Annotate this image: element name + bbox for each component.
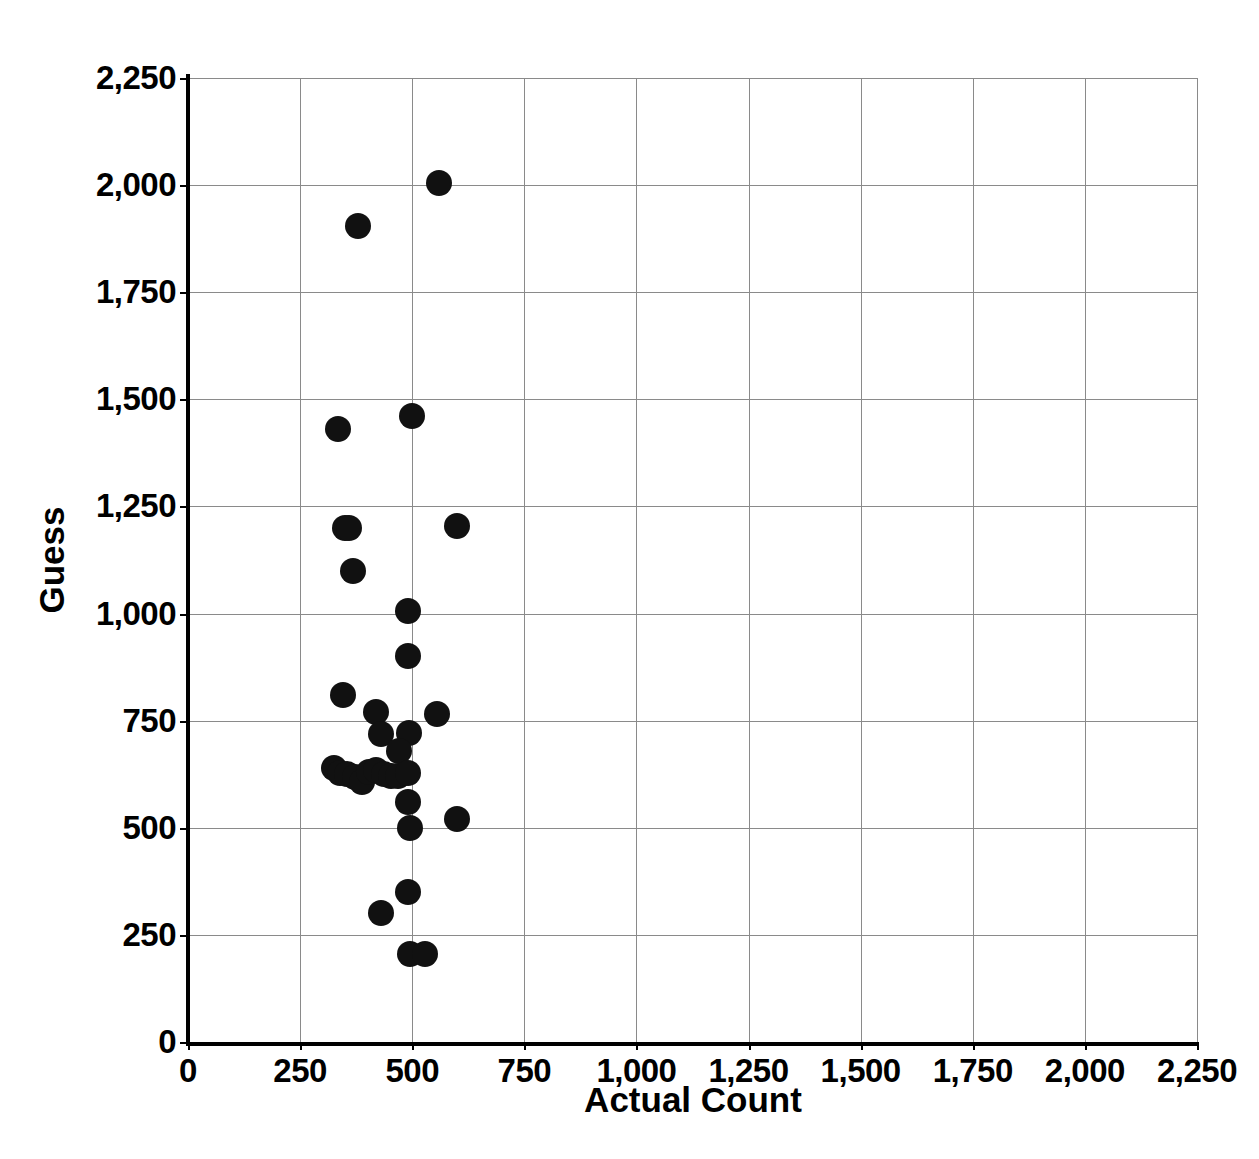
data-point <box>340 558 366 584</box>
gridline-vertical <box>973 78 974 1042</box>
data-point <box>397 815 423 841</box>
gridline-horizontal <box>188 78 1197 79</box>
data-point <box>395 643 421 669</box>
y-axis-tick <box>180 721 188 723</box>
x-axis-tick-label: 0 <box>179 1052 197 1090</box>
y-axis-tick-label: 2,250 <box>96 59 176 97</box>
y-axis-tick <box>180 185 188 187</box>
y-axis-tick <box>180 1042 188 1044</box>
y-axis-tick <box>180 292 188 294</box>
data-point <box>395 598 421 624</box>
x-axis-tick <box>973 1042 975 1050</box>
gridline-vertical <box>1085 78 1086 1042</box>
x-axis-tick-label: 250 <box>273 1052 327 1090</box>
x-axis-tick <box>1085 1042 1087 1050</box>
data-point <box>395 789 421 815</box>
y-axis-tick-label: 1,000 <box>96 595 176 633</box>
x-axis-tick <box>749 1042 751 1050</box>
y-axis-tick <box>180 935 188 937</box>
x-axis-tick <box>412 1042 414 1050</box>
x-axis-tick-label: 500 <box>385 1052 439 1090</box>
x-axis-tick-label: 2,000 <box>1045 1052 1125 1090</box>
x-axis-tick <box>524 1042 526 1050</box>
x-axis-tick-label: 1,750 <box>933 1052 1013 1090</box>
gridline-horizontal <box>188 935 1197 936</box>
data-point <box>395 879 421 905</box>
x-axis-title: Actual Count <box>584 1080 802 1120</box>
gridline-horizontal <box>188 614 1197 615</box>
gridline-horizontal <box>188 506 1197 507</box>
y-axis-tick-label: 2,000 <box>96 166 176 204</box>
data-point <box>395 760 421 786</box>
y-axis-tick-label: 1,250 <box>96 487 176 525</box>
y-axis-line <box>186 74 190 1046</box>
x-axis-tick <box>300 1042 302 1050</box>
y-axis-tick <box>180 828 188 830</box>
y-axis-tick-label: 1,500 <box>96 380 176 418</box>
data-point <box>444 513 470 539</box>
y-axis-tick-label: 0 <box>158 1023 176 1061</box>
x-axis-tick-label: 750 <box>498 1052 552 1090</box>
gridline-vertical <box>636 78 637 1042</box>
y-axis-tick <box>180 399 188 401</box>
y-axis-title: Guess <box>32 507 72 614</box>
gridline-vertical <box>1197 78 1198 1042</box>
x-axis-tick <box>188 1042 190 1050</box>
gridline-horizontal <box>188 185 1197 186</box>
y-axis-tick <box>180 78 188 80</box>
data-point <box>330 682 356 708</box>
gridline-horizontal <box>188 721 1197 722</box>
gridline-horizontal <box>188 292 1197 293</box>
y-axis-tick-label: 250 <box>122 916 176 954</box>
x-axis-line <box>186 1042 1199 1046</box>
gridline-horizontal <box>188 399 1197 400</box>
data-point <box>336 515 362 541</box>
data-point <box>426 170 452 196</box>
scatter-chart: 02505007501,0001,2501,5001,7502,0002,250… <box>0 0 1259 1159</box>
y-axis-tick <box>180 506 188 508</box>
y-axis-tick <box>180 614 188 616</box>
gridline-horizontal <box>188 828 1197 829</box>
y-axis-tick-label: 1,750 <box>96 273 176 311</box>
x-axis-tick-label: 2,250 <box>1157 1052 1237 1090</box>
y-axis-tick-label: 750 <box>122 702 176 740</box>
gridline-vertical <box>524 78 525 1042</box>
gridline-vertical <box>861 78 862 1042</box>
plot-area <box>188 78 1197 1042</box>
gridline-vertical <box>749 78 750 1042</box>
x-axis-tick <box>636 1042 638 1050</box>
gridline-vertical <box>300 78 301 1042</box>
data-point <box>412 941 438 967</box>
data-point <box>424 701 450 727</box>
x-axis-tick-label: 1,500 <box>821 1052 901 1090</box>
y-axis-tick-label: 500 <box>122 809 176 847</box>
x-axis-tick <box>861 1042 863 1050</box>
x-axis-tick <box>1197 1042 1199 1050</box>
